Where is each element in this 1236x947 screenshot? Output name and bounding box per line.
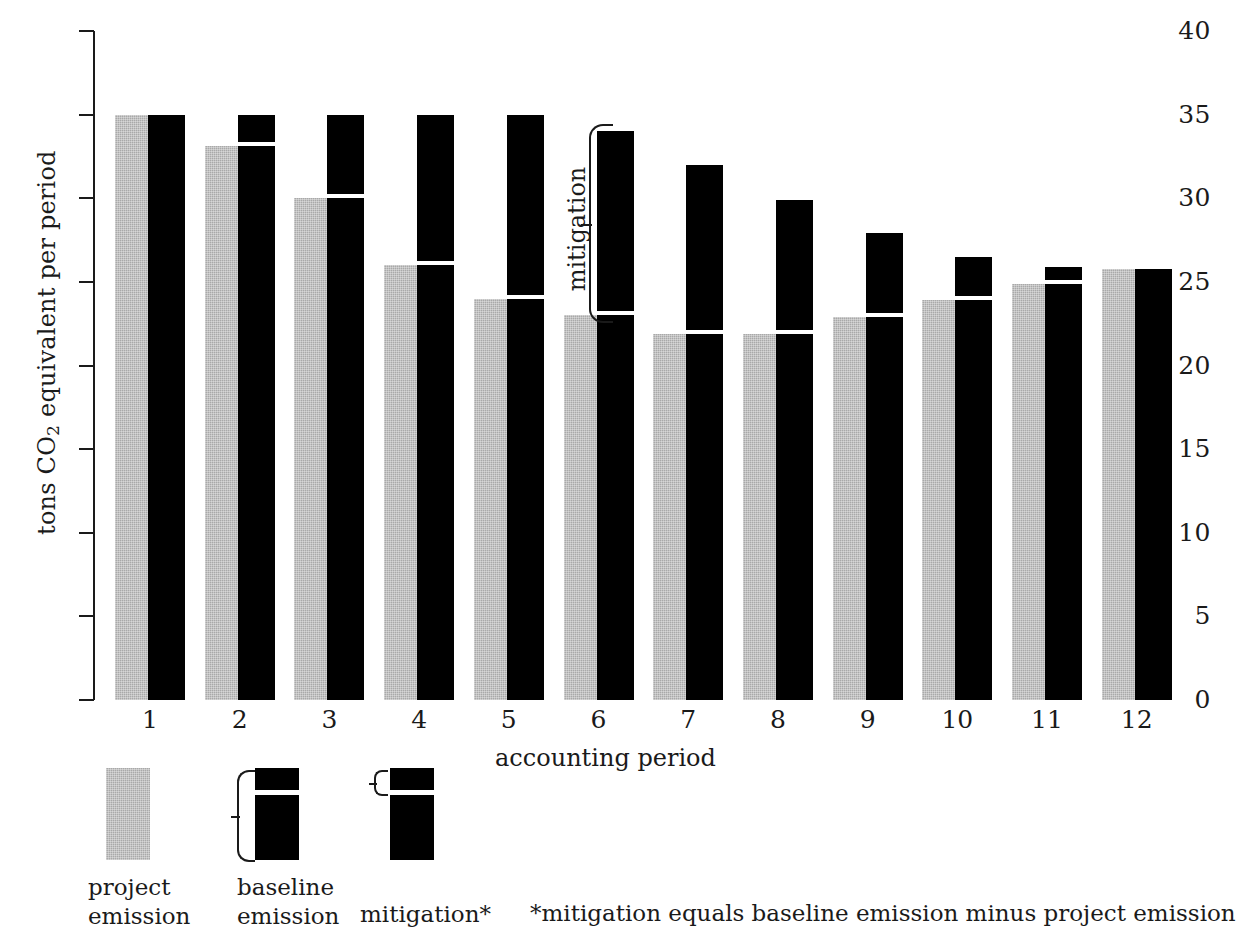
y-axis-tick: [79, 281, 94, 283]
legend-label-line1: baseline: [237, 873, 367, 902]
bar-project-emission: [474, 299, 507, 700]
y-axis-tick-label: 0: [1167, 687, 1211, 712]
y-axis-tick: [79, 532, 94, 534]
legend-brace-baseline: [237, 770, 255, 862]
legend-label-line2: emission: [237, 902, 367, 931]
mitigation-separator-line: [417, 261, 454, 265]
mitigation-separator-line: [1045, 280, 1082, 284]
x-axis-tick-label: 5: [474, 707, 544, 732]
bar-group: [294, 0, 364, 947]
legend-swatch-baseline-emission: [255, 768, 299, 860]
bar-project-emission: [743, 334, 776, 700]
x-axis-tick-label: 11: [1012, 707, 1082, 732]
y-axis-tick: [79, 365, 94, 367]
x-axis-tick-label: 7: [653, 707, 723, 732]
bar-group: [743, 0, 813, 947]
bar-baseline-emission: [955, 257, 992, 700]
x-axis-tick-label: 3: [294, 707, 364, 732]
bar-group: [1012, 0, 1082, 947]
bar-baseline-emission: [776, 200, 813, 700]
legend-footnote: *mitigation equals baseline emission min…: [530, 900, 1236, 926]
bar-project-emission: [833, 317, 866, 700]
bar-project-emission: [205, 146, 238, 700]
legend-label-line1: mitigation*: [360, 900, 520, 929]
legend-swatch-separator-line: [390, 790, 434, 795]
bar-group: [1102, 0, 1172, 947]
mitigation-separator-line: [686, 330, 723, 334]
y-axis-title-pre: tons CO: [33, 436, 61, 535]
mitigation-separator-line: [776, 330, 813, 334]
y-axis-tick: [79, 30, 94, 32]
bar-group: [922, 0, 992, 947]
bar-project-emission: [384, 265, 417, 700]
bar-baseline-emission: [866, 233, 903, 700]
mitigation-separator-line: [866, 313, 903, 317]
bar-project-emission: [564, 315, 597, 700]
x-axis-tick-label: 8: [743, 707, 813, 732]
bar-group: [833, 0, 903, 947]
bar-baseline-emission: [1045, 267, 1082, 700]
mitigation-annotation-label: mitigation: [563, 139, 591, 319]
bar-group: [474, 0, 544, 947]
bar-baseline-emission: [327, 115, 364, 700]
y-axis-title-sub: 2: [43, 425, 63, 436]
y-axis-tick-label: 30: [1167, 185, 1211, 210]
bar-project-emission: [922, 300, 955, 700]
x-axis-tick-label: 4: [384, 707, 454, 732]
mitigation-separator-line: [238, 142, 275, 146]
mitigation-separator-line: [955, 296, 992, 300]
legend-label-mitigation: mitigation*: [360, 900, 520, 929]
legend-label-line2: emission: [88, 902, 208, 931]
legend-label-baseline-emission: baseline emission: [237, 873, 367, 931]
bar-project-emission: [1102, 269, 1135, 701]
y-axis-tick: [79, 114, 94, 116]
y-axis-tick: [79, 615, 94, 617]
y-axis-tick: [79, 197, 94, 199]
y-axis-tick-label: 15: [1167, 436, 1211, 461]
mitigation-separator-line: [507, 295, 544, 299]
x-axis-tick-label: 1: [115, 707, 185, 732]
bar-baseline-emission: [417, 115, 454, 700]
bar-project-emission: [1012, 284, 1045, 700]
legend-swatch-project-emission: [106, 768, 150, 860]
legend-label-line1: project: [88, 873, 208, 902]
mitigation-separator-line: [327, 194, 364, 198]
bar-baseline-emission: [238, 115, 275, 700]
y-axis-tick-label: 40: [1167, 18, 1211, 43]
x-axis-tick-label: 6: [564, 707, 634, 732]
legend-brace-mitigation: [374, 770, 388, 796]
x-axis-tick-label: 9: [833, 707, 903, 732]
legend-label-project-emission: project emission: [88, 873, 208, 931]
bar-baseline-emission: [148, 115, 185, 700]
x-axis-title: accounting period: [0, 744, 1211, 772]
y-axis-title: tons CO2 equivalent per period: [33, 175, 63, 535]
x-axis-tick-label: 12: [1102, 707, 1172, 732]
mitigation-bracket: [589, 124, 613, 323]
y-axis-tick-label: 25: [1167, 269, 1211, 294]
x-axis-tick-label: 2: [205, 707, 275, 732]
x-axis-tick-label: 10: [922, 707, 992, 732]
y-axis-tick-label: 35: [1167, 102, 1211, 127]
y-axis-tick: [79, 699, 94, 701]
legend-swatch-separator-line: [255, 790, 299, 795]
legend-swatch-mitigation: [390, 768, 434, 860]
bar-baseline-emission: [507, 115, 544, 700]
bar-project-emission: [653, 334, 686, 700]
y-axis-title-post: equivalent per period: [33, 150, 61, 424]
bar-project-emission: [294, 198, 327, 700]
bar-project-emission: [115, 115, 148, 700]
bar-baseline-emission: [686, 165, 723, 700]
y-axis-tick-label: 20: [1167, 353, 1211, 378]
bar-baseline-emission: [1135, 269, 1172, 701]
y-axis-tick-label: 5: [1167, 603, 1211, 628]
y-axis-tick-label: 10: [1167, 520, 1211, 545]
y-axis-tick: [79, 448, 94, 450]
bar-group: [653, 0, 723, 947]
